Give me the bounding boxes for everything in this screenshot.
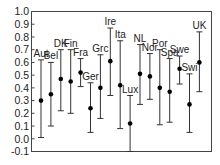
errorbar-bel: Bel	[44, 50, 58, 126]
point-estimate	[128, 121, 133, 126]
category-label: Grc	[92, 43, 108, 54]
errorbar-chart: 1.00.90.80.70.60.50.40.30.20.10.0-0.1 Au…	[0, 0, 220, 165]
point-estimate	[108, 59, 113, 64]
y-tick-label: 0.7	[14, 43, 29, 55]
point-estimate	[88, 106, 93, 111]
y-tick-label: 0.0	[14, 133, 29, 145]
y-tick-label: 0.1	[14, 120, 29, 132]
y-tick-label: 0.4	[14, 82, 29, 94]
category-label: Swe	[170, 44, 190, 55]
category-label: Ita	[115, 29, 127, 40]
point-estimate	[59, 77, 64, 82]
category-label: Ger	[82, 71, 99, 82]
point-estimate	[98, 86, 103, 91]
point-estimate	[68, 79, 73, 84]
category-label: Ire	[104, 16, 116, 27]
y-tick-label: 0.3	[14, 94, 29, 106]
y-axis: 1.00.90.80.70.60.50.40.30.20.10.0-0.1	[11, 5, 35, 157]
category-label: Fra	[73, 47, 88, 58]
point-estimate	[167, 89, 172, 94]
y-tick-label: 0.8	[14, 31, 29, 43]
category-label: UK	[192, 20, 206, 31]
y-tick-label: 0.2	[14, 107, 29, 119]
y-tick-label: 1.0	[14, 5, 29, 17]
errorbar-ger: Ger	[82, 71, 99, 133]
errorbar-spa: Spa	[161, 47, 179, 123]
errorbar-ita: Ita	[115, 29, 127, 129]
point-estimate	[138, 72, 143, 77]
errorbar-swi: Swi	[181, 62, 197, 133]
errorbar-lux: Lux	[122, 84, 138, 152]
y-tick-label: 0.9	[14, 18, 29, 30]
category-label: Bel	[44, 50, 58, 61]
point-estimate	[158, 86, 163, 91]
point-estimate	[187, 102, 192, 107]
y-tick-label: 0.6	[14, 56, 29, 68]
error-bars: AutBelDKFinFraGerGrcIreItaLuxNLNorPorSpa…	[33, 16, 206, 151]
y-tick-label: 0.5	[14, 69, 29, 81]
errorbar-nor: Nor	[142, 42, 159, 100]
point-estimate	[49, 92, 54, 97]
point-estimate	[197, 60, 202, 65]
errorbar-uk: UK	[192, 20, 206, 92]
y-tick-label: -0.1	[11, 145, 29, 157]
point-estimate	[148, 74, 153, 79]
category-label: Lux	[122, 84, 138, 95]
point-estimate	[39, 98, 44, 103]
category-label: Swi	[181, 62, 197, 73]
